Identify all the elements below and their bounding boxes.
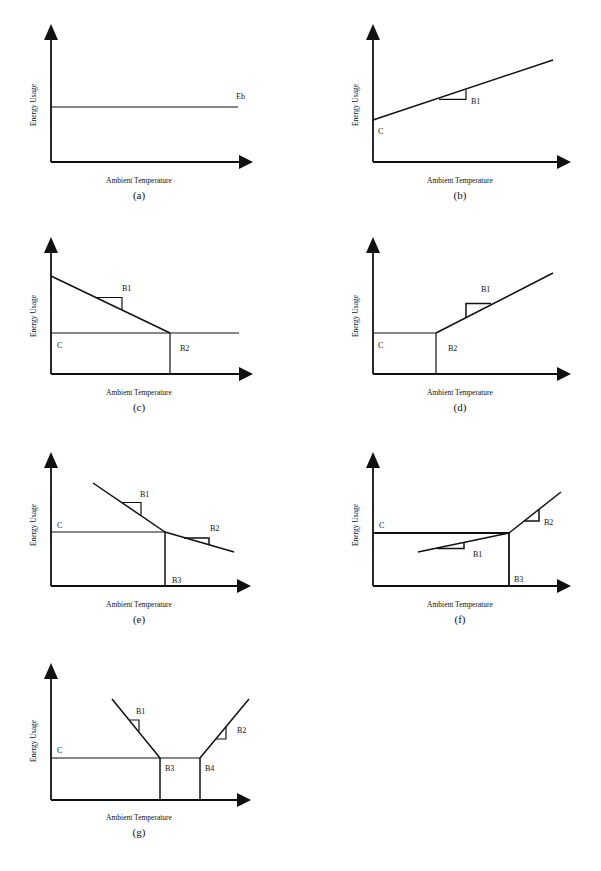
panel-f: B1 B2 C B3 Energy Usage Ambient Temperat… [351,452,571,626]
x-axis-arrow-icon [557,367,571,381]
b1-label: B1 [473,550,482,559]
cooling-slope-line [436,273,553,333]
b3-label: B3 [165,764,174,773]
x-axis-label: Ambient Temperature [106,388,172,397]
c-label: C [57,341,62,350]
change-point-models-figure: Eb Energy Usage Ambient Temperature (a) … [0,0,601,871]
y-axis-arrow-icon [44,663,58,679]
steep-slope-line [93,483,165,532]
y-axis-arrow-icon [44,24,58,40]
regression-line [373,60,553,120]
b2-label: B2 [448,344,457,353]
b2-label: B2 [180,344,189,353]
b1-label: B1 [140,490,149,499]
x-axis-label: Ambient Temperature [106,176,172,185]
c-label: C [378,341,383,350]
b1-label: B1 [122,284,131,293]
panel-g: B1 B2 C B3 B4 Energy Usage Ambient Tempe… [29,663,251,839]
y-axis-label: Energy Usage [29,719,38,762]
c-label: C [379,521,384,530]
panel-b: B1 C Energy Usage Ambient Temperature (b… [351,24,571,202]
panel-c: B1 C B2 Energy Usage Ambient Temperature… [29,237,253,414]
x-axis-arrow-icon [239,367,253,381]
y-axis-label: Energy Usage [351,294,360,337]
panel-a: Eb Energy Usage Ambient Temperature (a) [29,24,253,202]
y-axis-label: Energy Usage [29,294,38,337]
b1-label: B1 [136,707,145,716]
slope-triangle [439,90,466,99]
panel-caption: (b) [454,189,467,202]
x-axis-arrow-icon [239,155,253,169]
panel-d: B1 C B2 Energy Usage Ambient Temperature… [351,237,571,414]
c-label: C [57,746,62,755]
x-axis-label: Ambient Temperature [427,176,493,185]
panel-caption: (f) [455,613,466,626]
y-axis-arrow-icon [366,237,380,253]
b2-label: B2 [544,518,553,527]
panel-caption: (a) [133,189,146,202]
y-axis-arrow-icon [44,237,58,253]
eb-label: Eb [236,92,245,101]
x-axis-label: Ambient Temperature [106,813,172,822]
y-axis-label: Energy Usage [29,83,38,126]
b3-label: B3 [514,575,523,584]
c-label: C [378,127,383,136]
y-axis-arrow-icon [366,24,380,40]
panel-caption: (c) [133,401,146,414]
y-axis-arrow-icon [44,452,58,468]
x-axis-arrow-icon [237,793,251,807]
y-axis-label: Energy Usage [351,503,360,546]
heating-slope-line [51,276,170,333]
b3-label: B3 [172,576,181,585]
b2-label: B2 [237,726,246,735]
panel-caption: (e) [133,613,146,626]
x-axis-arrow-icon [557,579,571,593]
panel-caption: (d) [454,401,467,414]
shallow-slope-line [165,532,234,552]
panel-e: B1 B2 C B3 Energy Usage Ambient Temperat… [29,452,251,626]
c-label: C [57,521,62,530]
x-axis-label: Ambient Temperature [427,600,493,609]
x-axis-arrow-icon [237,579,251,593]
b1-label: B1 [471,97,480,106]
y-axis-arrow-icon [366,452,380,468]
b2-label: B2 [210,524,219,533]
x-axis-label: Ambient Temperature [106,600,172,609]
b1-label: B1 [481,285,490,294]
x-axis-label: Ambient Temperature [427,388,493,397]
y-axis-label: Energy Usage [351,83,360,126]
b4-label: B4 [205,764,214,773]
x-axis-arrow-icon [557,155,571,169]
panel-caption: (g) [133,826,146,839]
y-axis-label: Energy Usage [29,503,38,546]
